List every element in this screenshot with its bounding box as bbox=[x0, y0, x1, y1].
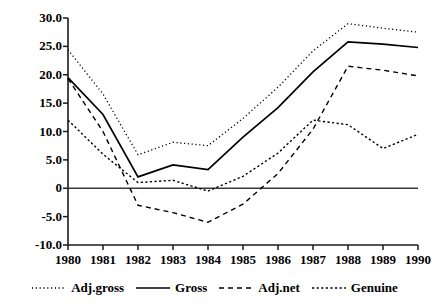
legend-item-adj-gross: Adj.gross bbox=[32, 281, 124, 295]
y-tick-label: 20.0 bbox=[39, 69, 62, 81]
y-tick-label: -5.0 bbox=[41, 211, 62, 223]
x-tick-label: 1990 bbox=[398, 253, 436, 267]
legend-swatch-genuine bbox=[312, 283, 346, 293]
legend-swatch-adj-gross bbox=[32, 283, 66, 293]
y-tick-label-wrap: 25.0 bbox=[0, 40, 62, 52]
series-line-gross bbox=[68, 42, 418, 177]
y-tick-label: 5.0 bbox=[46, 154, 62, 166]
legend-item-adj-net: Adj.net bbox=[219, 281, 300, 295]
y-tick-label-wrap: 20.0 bbox=[0, 69, 62, 81]
y-tick-label-wrap: 5.0 bbox=[0, 154, 62, 166]
legend-item-genuine: Genuine bbox=[312, 281, 398, 295]
x-tick-label: 1986 bbox=[258, 253, 298, 267]
y-tick-label: 10.0 bbox=[39, 126, 62, 138]
y-tick-label-wrap: -5.0 bbox=[0, 211, 62, 223]
x-tick-label: 1987 bbox=[293, 253, 333, 267]
x-tick-label: 1988 bbox=[328, 253, 368, 267]
y-tick-label-wrap: 30.0 bbox=[0, 12, 62, 24]
x-tick-label: 1983 bbox=[153, 253, 193, 267]
y-tick-label: 0 bbox=[56, 182, 63, 194]
legend-label-gross: Gross bbox=[175, 281, 207, 295]
legend-swatch-gross bbox=[136, 283, 170, 293]
x-tick-label: 1982 bbox=[118, 253, 158, 267]
y-tick-label: 30.0 bbox=[39, 12, 62, 24]
data-series-group bbox=[68, 24, 418, 223]
y-tick-label: -10.0 bbox=[35, 239, 62, 251]
legend-label-adj-gross: Adj.gross bbox=[71, 281, 124, 295]
legend-label-genuine: Genuine bbox=[351, 281, 398, 295]
y-tick-label-wrap: 15.0 bbox=[0, 97, 62, 109]
series-line-genuine bbox=[68, 120, 418, 191]
y-tick-label-wrap: 0 bbox=[0, 182, 62, 194]
legend-label-adj-net: Adj.net bbox=[258, 281, 300, 295]
y-tick-label-wrap: -10.0 bbox=[0, 239, 62, 251]
y-tick-label: 25.0 bbox=[39, 40, 62, 52]
x-tick-label: 1984 bbox=[188, 253, 228, 267]
x-tick-label: 1981 bbox=[83, 253, 123, 267]
x-tick-label: 1985 bbox=[223, 253, 263, 267]
x-tick-label: 1980 bbox=[48, 253, 88, 267]
y-tick-label: 15.0 bbox=[39, 97, 62, 109]
y-tick-label-wrap: 10.0 bbox=[0, 126, 62, 138]
chart-legend: Adj.gross Gross Adj.net Genuine bbox=[0, 276, 430, 300]
legend-item-gross: Gross bbox=[136, 281, 207, 295]
legend-swatch-adj-net bbox=[219, 283, 253, 293]
x-tick-label: 1989 bbox=[363, 253, 403, 267]
